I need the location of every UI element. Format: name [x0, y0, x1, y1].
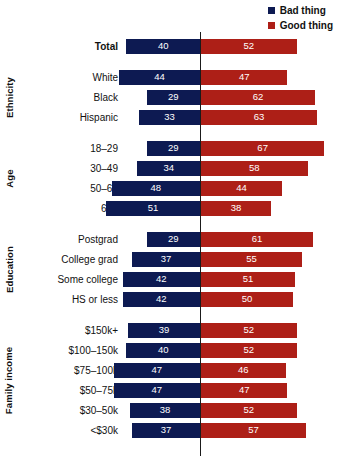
- bar-value-bad: 51: [148, 203, 159, 213]
- chart-row: $75–100k4746: [0, 362, 340, 379]
- bar-value-bad: 47: [151, 365, 162, 375]
- chart-row: 50–644844: [0, 180, 340, 197]
- bar-value-good: 67: [257, 143, 268, 153]
- bar-value-bad: 38: [160, 405, 171, 415]
- square-swatch-icon: [268, 22, 275, 29]
- bar-value-bad: 34: [163, 163, 174, 173]
- chart-row: $100–150k4052: [0, 342, 340, 359]
- chart-row: HS or less4250: [0, 291, 340, 308]
- bar-value-good: 58: [249, 163, 260, 173]
- chart-row: $30–50k3852: [0, 402, 340, 419]
- bar-value-bad: 29: [168, 92, 179, 102]
- bar-value-bad: 29: [168, 143, 179, 153]
- bar-value-good: 52: [244, 345, 255, 355]
- bar-value-good: 61: [252, 234, 263, 244]
- bar-good-thing: 67: [201, 141, 324, 156]
- bar-bad-thing: 37: [132, 252, 200, 267]
- bar-bad-thing: 34: [137, 161, 200, 176]
- group-label-text: Ethnicity: [4, 77, 15, 118]
- bar-value-bad: 29: [168, 234, 179, 244]
- bar-value-bad: 37: [161, 425, 172, 435]
- bar-good-thing: 44: [201, 181, 282, 196]
- bar-good-thing: 47: [201, 383, 287, 398]
- bar-value-good: 50: [242, 294, 253, 304]
- chart-row: Black2962: [0, 89, 340, 106]
- bar-good-thing: 55: [201, 252, 302, 267]
- bar-value-good: 44: [236, 183, 247, 193]
- bar-bad-thing: 37: [132, 423, 200, 438]
- legend-label-bad-thing: Bad thing: [280, 5, 326, 16]
- bar-bad-thing: 29: [147, 90, 200, 105]
- bar-good-thing: 52: [201, 39, 297, 54]
- diverging-bar-chart: Bad thing Good thing Total4052White4447B…: [0, 0, 340, 463]
- chart-row: Postgrad2961: [0, 231, 340, 248]
- bar-good-thing: 52: [201, 343, 297, 358]
- legend-item-bad-thing: Bad thing: [268, 4, 326, 16]
- legend-item-good-thing: Good thing: [268, 19, 333, 31]
- group-label-ethnicity: Ethnicity: [0, 69, 18, 126]
- bar-value-good: 51: [243, 274, 254, 284]
- chart-row: Some college4251: [0, 271, 340, 288]
- bar-good-thing: 63: [201, 110, 317, 125]
- bar-good-thing: 52: [201, 323, 297, 338]
- bar-value-bad: 33: [164, 112, 175, 122]
- bar-good-thing: 57: [201, 423, 306, 438]
- bar-value-good: 52: [244, 405, 255, 415]
- bar-bad-thing: 29: [147, 141, 200, 156]
- bar-value-bad: 37: [161, 254, 172, 264]
- bar-bad-thing: 39: [128, 323, 200, 338]
- bar-value-bad: 39: [159, 325, 170, 335]
- bar-value-bad: 40: [158, 345, 169, 355]
- bar-value-bad: 48: [151, 183, 162, 193]
- bar-value-good: 38: [231, 203, 242, 213]
- legend-label-good-thing: Good thing: [280, 20, 333, 31]
- chart-row: 30–493458: [0, 160, 340, 177]
- chart-row: $150k+3952: [0, 322, 340, 339]
- group-label-text: Family income: [4, 347, 15, 414]
- chart-row: College grad3755: [0, 251, 340, 268]
- bar-good-thing: 61: [201, 232, 313, 247]
- bar-good-thing: 58: [201, 161, 308, 176]
- bar-good-thing: 62: [201, 90, 315, 105]
- bar-value-good: 47: [239, 385, 250, 395]
- bar-bad-thing: 44: [119, 70, 200, 85]
- bar-good-thing: 52: [201, 403, 297, 418]
- bar-value-good: 57: [248, 425, 259, 435]
- bar-value-good: 46: [238, 365, 249, 375]
- bar-bad-thing: 33: [139, 110, 200, 125]
- bar-bad-thing: 42: [123, 292, 200, 307]
- bar-good-thing: 38: [201, 201, 271, 216]
- chart-row: Hispanic3363: [0, 109, 340, 126]
- chart-row: 18–292967: [0, 140, 340, 157]
- bar-value-bad: 40: [158, 41, 169, 51]
- chart-legend: Bad thing Good thing: [268, 4, 333, 31]
- bar-value-good: 52: [244, 41, 255, 51]
- group-label-family-income: Family income: [0, 322, 18, 439]
- bar-good-thing: 51: [201, 272, 295, 287]
- chart-row: <$30k3757: [0, 422, 340, 439]
- bar-bad-thing: 51: [106, 201, 200, 216]
- bar-bad-thing: 48: [112, 181, 200, 196]
- bar-value-good: 55: [246, 254, 257, 264]
- chart-row: 65+5138: [0, 200, 340, 217]
- group-label-education: Education: [0, 231, 18, 308]
- group-label-age: Age: [0, 140, 18, 217]
- row-label-total: Total: [0, 38, 118, 55]
- square-swatch-icon: [268, 7, 275, 14]
- bar-bad-thing: 47: [114, 363, 200, 378]
- bar-bad-thing: 38: [130, 403, 200, 418]
- bar-value-good: 47: [239, 72, 250, 82]
- bar-value-good: 62: [253, 92, 264, 102]
- bar-bad-thing: 40: [126, 39, 200, 54]
- group-label-text: Education: [4, 246, 15, 293]
- chart-row: White4447: [0, 69, 340, 86]
- bar-bad-thing: 40: [126, 343, 200, 358]
- bar-value-bad: 44: [154, 72, 165, 82]
- bar-value-good: 52: [244, 325, 255, 335]
- bar-value-bad: 47: [151, 385, 162, 395]
- bar-value-bad: 42: [156, 274, 167, 284]
- bar-value-bad: 42: [156, 294, 167, 304]
- bar-bad-thing: 47: [114, 383, 200, 398]
- group-label-text: Age: [4, 169, 15, 187]
- bar-good-thing: 47: [201, 70, 287, 85]
